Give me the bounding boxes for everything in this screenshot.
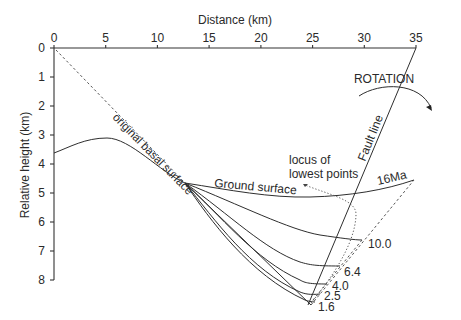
fault-line-label: Fault line	[355, 112, 386, 163]
locus-label-line1: locus of	[289, 153, 331, 167]
dashed-envelope-line	[311, 180, 414, 305]
x-tick-label: 25	[306, 31, 320, 45]
curve-1-6	[185, 183, 315, 302]
y-tick-label: 2	[38, 99, 45, 113]
y-tick-label: 7	[38, 244, 45, 258]
y-tick-label: 8	[38, 273, 45, 287]
age-label-10-0: 10.0	[368, 237, 392, 251]
x-tick-label: 5	[102, 31, 109, 45]
x-tick-label: 0	[51, 31, 58, 45]
y-axis: 0 1 2 3 4 5 6 7 8	[38, 41, 54, 287]
y-tick-label: 3	[38, 128, 45, 142]
rotation-label: ROTATION	[354, 72, 414, 86]
y-tick-label: 6	[38, 215, 45, 229]
basal-line-dense	[185, 183, 311, 305]
basin-evolution-diagram: Distance (km) Relative height (km) 0 5 1…	[0, 0, 461, 320]
curve-6-4	[185, 183, 340, 266]
x-axis: 0 5 10 15 20 25 30 35	[51, 31, 423, 48]
age-label-6-4: 6.4	[344, 265, 361, 279]
curve-4-0	[185, 183, 327, 284]
x-tick-label: 15	[202, 31, 216, 45]
age-label-16ma: 16Ma	[376, 167, 409, 187]
y-axis-title: Relative height (km)	[18, 112, 32, 219]
curve-2-5	[185, 183, 320, 294]
x-tick-label: 20	[254, 31, 268, 45]
x-axis-title: Distance (km)	[198, 13, 272, 27]
y-tick-label: 1	[38, 70, 45, 84]
y-tick-label: 0	[38, 41, 45, 55]
y-tick-label: 4	[38, 157, 45, 171]
y-tick-label: 5	[38, 186, 45, 200]
x-tick-label: 10	[151, 31, 165, 45]
locus-label-line2: lowest points	[289, 167, 358, 181]
rotation-arrowhead-icon	[426, 105, 432, 111]
age-label-1-6: 1.6	[318, 300, 335, 314]
x-tick-label: 35	[409, 31, 423, 45]
original-basal-surface-label: original basal surface	[111, 111, 196, 197]
x-tick-label: 30	[358, 31, 372, 45]
